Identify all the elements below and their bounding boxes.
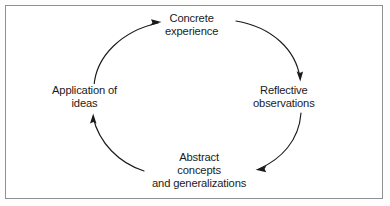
node-application-of-ideas-line2: ideas [52, 97, 117, 110]
node-reflective-observations-line2: observations [253, 97, 315, 110]
node-reflective-observations: Reflective observations [251, 84, 317, 110]
node-abstract-concepts-line1: Abstract [152, 151, 246, 164]
arc-reflective-to-abstract [259, 113, 301, 169]
node-abstract-concepts: Abstract concepts and generalizations [150, 151, 248, 191]
cycle-diagram-figure: Concrete experience Reflective observati… [0, 0, 390, 206]
node-abstract-concepts-line3: and generalizations [152, 177, 246, 190]
arrowhead-right-to-concrete [150, 19, 161, 25]
node-reflective-observations-line1: Reflective [253, 84, 315, 97]
arc-application-to-concrete [94, 23, 158, 86]
node-concrete-experience-line2: experience [165, 25, 218, 38]
arrowhead-left-to-abstract [256, 166, 267, 172]
node-concrete-experience-line1: Concrete [165, 12, 218, 25]
arrowhead-down-to-reflective [297, 71, 304, 81]
arc-abstract-to-application [93, 117, 144, 171]
node-application-of-ideas: Application of ideas [50, 84, 119, 110]
node-application-of-ideas-line1: Application of [52, 84, 117, 97]
node-concrete-experience: Concrete experience [163, 12, 220, 38]
arrowhead-up-to-application [90, 114, 97, 124]
arc-concrete-to-reflective [236, 21, 300, 78]
node-abstract-concepts-line2: concepts [152, 164, 246, 177]
